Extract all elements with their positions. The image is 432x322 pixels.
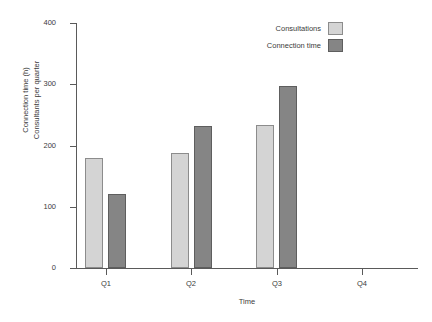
x-axis-title: Time: [76, 297, 418, 306]
legend-label: Connection time: [267, 42, 321, 50]
bar-q2-connection-time: [194, 126, 212, 268]
legend-item-connection-time[interactable]: Connection time: [233, 37, 343, 54]
legend-swatch: [328, 22, 343, 35]
x-tick-mark: [106, 269, 107, 275]
bar-q3-consultations: [256, 125, 274, 268]
bar-q2-consultations: [171, 153, 189, 268]
x-axis-line: [76, 268, 418, 269]
y-tick-mark: [70, 268, 76, 269]
y-tick-label: 0: [30, 264, 56, 272]
y-tick-label: 100: [30, 203, 56, 211]
legend-item-consultations[interactable]: Consultations: [233, 20, 343, 37]
y-axis-title-line-2: Consultants per quarter: [31, 10, 42, 190]
plot-area: [76, 23, 418, 268]
x-tick-label: Q3: [257, 280, 297, 288]
legend-swatch: [328, 39, 343, 52]
x-tick-label: Q2: [171, 280, 211, 288]
x-tick-mark: [362, 269, 363, 275]
y-axis-title-line-1: Connection time (h): [20, 10, 31, 190]
x-tick-mark: [277, 269, 278, 275]
x-tick-label: Q4: [342, 280, 382, 288]
y-axis-title: Connection time (h) Consultants per quar…: [20, 10, 44, 190]
bar-q1-connection-time: [108, 194, 126, 268]
bar-q3-connection-time: [279, 86, 297, 268]
legend-label: Consultations: [276, 25, 321, 33]
x-tick-label: Q1: [86, 280, 126, 288]
x-tick-mark: [191, 269, 192, 275]
bar-chart: 0100200300400 Q1Q2Q3Q4 Connection time (…: [0, 0, 432, 322]
bar-q1-consultations: [85, 158, 103, 268]
legend: ConsultationsConnection time: [233, 20, 343, 54]
